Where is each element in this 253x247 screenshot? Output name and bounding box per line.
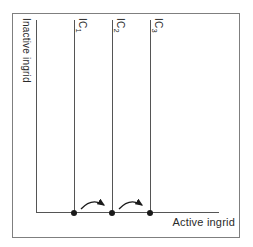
indifference-curve-line-2 xyxy=(112,20,113,212)
curve-label-ic2: IC2 xyxy=(111,18,126,33)
curved-shift-arrow-icon-2 xyxy=(117,197,147,213)
arrow-arc xyxy=(81,202,104,209)
curve-label-subscript: 3 xyxy=(150,28,159,32)
curve-label-ic1: IC1 xyxy=(73,18,88,33)
curve-label-ic3: IC3 xyxy=(149,18,164,33)
x-axis-label: Active ingrid xyxy=(172,216,235,228)
corner-point-dot-1 xyxy=(71,210,77,216)
figure-panel: Inactive ingrid Active ingrid IC1 IC2 IC… xyxy=(0,0,253,247)
arrow-arc xyxy=(119,202,142,209)
corner-point-dot-3 xyxy=(147,210,153,216)
y-axis-label: Inactive ingrid xyxy=(21,18,32,83)
curved-shift-arrow-icon-1 xyxy=(79,197,109,213)
curve-label-base: IC xyxy=(77,18,88,28)
curve-label-subscript: 1 xyxy=(74,28,83,32)
curve-label-base: IC xyxy=(115,18,126,28)
curve-label-subscript: 2 xyxy=(112,28,121,32)
corner-point-dot-2 xyxy=(109,210,115,216)
curve-label-base: IC xyxy=(153,18,164,28)
y-axis-line xyxy=(36,20,37,213)
indifference-curve-line-1 xyxy=(74,20,75,212)
indifference-curve-line-3 xyxy=(150,20,151,212)
